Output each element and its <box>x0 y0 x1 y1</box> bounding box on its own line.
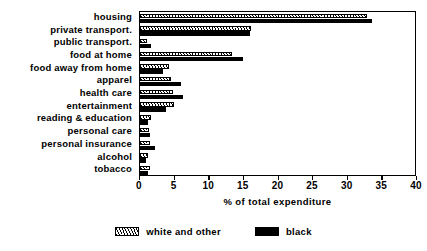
bar-group <box>140 114 415 127</box>
bar-group <box>140 12 415 25</box>
bar-group <box>140 126 415 139</box>
bar-white-and-other <box>140 128 149 132</box>
bar-white-and-other <box>140 39 147 43</box>
bar-white-and-other <box>140 115 151 119</box>
category-label: reading & education <box>37 113 132 123</box>
bar-black <box>140 82 181 86</box>
bar-group <box>140 75 415 88</box>
bar-black <box>140 95 183 99</box>
legend-label: white and other <box>146 226 221 237</box>
bar-group <box>140 139 415 152</box>
bar-group <box>140 152 415 165</box>
category-label: housing <box>94 12 132 22</box>
legend-item: black <box>255 226 312 237</box>
bar-black <box>140 133 150 137</box>
bar-white-and-other <box>140 141 150 145</box>
x-axis-tick-label: 0 <box>136 180 142 192</box>
x-axis-tick-label: 40 <box>410 180 422 192</box>
category-label: private transport. <box>50 25 132 35</box>
bar-chart: housingprivate transport.public transpor… <box>0 0 427 251</box>
bar-white-and-other <box>140 52 232 56</box>
category-label: personal insurance <box>41 139 132 149</box>
x-axis-tick-label: 25 <box>306 180 318 192</box>
category-label: health care <box>80 88 132 98</box>
bar-white-and-other <box>140 90 173 94</box>
category-axis-labels: housingprivate transport.public transpor… <box>0 11 136 176</box>
bar-black <box>140 19 372 23</box>
bar-series-container <box>140 12 415 175</box>
bar-group <box>140 63 415 76</box>
bar-group <box>140 50 415 63</box>
bar-black <box>140 120 148 124</box>
bar-group <box>140 101 415 114</box>
x-axis-tick-label: 10 <box>202 180 214 192</box>
chart-legend: white and otherblack <box>0 226 427 237</box>
bar-white-and-other <box>140 77 171 81</box>
plot-area <box>139 11 416 176</box>
x-axis-tick-label: 30 <box>341 180 353 192</box>
x-axis-tick-label: 20 <box>272 180 284 192</box>
black-swatch <box>255 227 279 236</box>
bar-black <box>140 171 148 175</box>
bar-white-and-other <box>140 102 174 106</box>
legend-item: white and other <box>115 226 221 237</box>
bar-white-and-other <box>140 26 251 30</box>
x-axis-tick-label: 35 <box>376 180 388 192</box>
category-label: tobacco <box>94 164 132 174</box>
bar-black <box>140 107 166 111</box>
bar-white-and-other <box>140 153 148 157</box>
category-label: food away from home <box>30 63 132 73</box>
bar-black <box>140 44 151 48</box>
bar-black <box>140 57 243 61</box>
x-axis-title: % of total expenditure <box>139 196 416 207</box>
x-axis-tick-label: 5 <box>171 180 177 192</box>
bar-white-and-other <box>140 64 169 68</box>
legend-label: black <box>286 226 312 237</box>
category-label: public transport. <box>54 37 132 47</box>
category-label: alcohol <box>97 152 132 162</box>
bar-group <box>140 88 415 101</box>
bar-black <box>140 146 155 150</box>
bar-black <box>140 31 250 35</box>
x-axis-tick-labels: 0510152025303540 <box>0 180 427 194</box>
bar-black <box>140 158 146 162</box>
hatched-swatch <box>115 227 139 236</box>
bar-white-and-other <box>140 166 150 170</box>
category-label: food at home <box>70 50 132 60</box>
category-label: apparel <box>97 75 132 85</box>
bar-black <box>140 69 163 73</box>
category-label: personal care <box>68 126 132 136</box>
category-label: entertainment <box>67 101 132 111</box>
x-axis-tick-label: 15 <box>237 180 249 192</box>
bar-white-and-other <box>140 14 367 18</box>
bar-group <box>140 25 415 38</box>
bar-group <box>140 37 415 50</box>
